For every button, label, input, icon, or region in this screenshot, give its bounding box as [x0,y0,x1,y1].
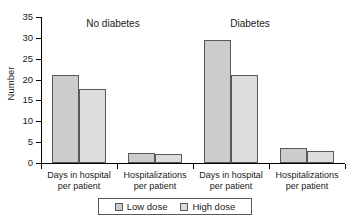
y-tick-5 [36,142,41,143]
bar-low-dose-cat-0 [52,75,79,163]
y-tick-label-20: 20 [12,75,33,85]
legend-swatch-high-dose-icon [180,203,188,211]
legend-label-high-dose: High dose [192,202,235,212]
y-tick-label-25: 25 [12,54,33,64]
bar-high-dose-cat-0 [79,89,106,163]
y-tick-30 [36,38,41,39]
bar-high-dose-cat-2 [231,75,258,163]
legend-item-low-dose[interactable]: Low dose [115,202,168,212]
legend-swatch-low-dose-icon [115,203,123,211]
x-tick-2 [193,164,194,169]
y-tick-label-30: 30 [12,33,33,43]
x-tick-4 [345,164,346,169]
y-tick-15 [36,100,41,101]
y-tick-label-5: 5 [12,137,33,147]
y-tick-25 [36,59,41,60]
y-tick-label-15: 15 [12,95,33,105]
x-category-label-3: Hospitalizationsper patient [257,170,350,191]
legend: Low dose High dose [98,198,252,215]
y-tick-label-10: 10 [12,116,33,126]
group-title-diabetes: Diabetes [205,18,295,29]
bar-high-dose-cat-3 [307,151,334,163]
y-tick-20 [36,80,41,81]
bar-low-dose-cat-3 [280,148,307,163]
legend-label-low-dose: Low dose [127,202,168,212]
y-tick-label-0: 0 [12,158,33,168]
bar-low-dose-cat-2 [204,40,231,163]
group-title-no-diabetes: No diabetes [58,18,168,29]
y-axis-line [41,17,42,164]
bar-low-dose-cat-1 [128,153,155,163]
y-tick-10 [36,121,41,122]
x-tick-1 [117,164,118,169]
legend-item-high-dose[interactable]: High dose [180,202,235,212]
bar-high-dose-cat-1 [155,154,182,163]
x-category-label-3-line1: Hospitalizations [257,170,350,181]
x-tick-3 [269,164,270,169]
y-tick-35 [36,17,41,18]
y-tick-label-35: 35 [12,12,33,22]
x-category-label-3-line2: per patient [257,181,350,192]
x-tick-0 [41,164,42,169]
bar-chart: Number 05101520253035 No diabetes Diabet… [0,0,350,221]
